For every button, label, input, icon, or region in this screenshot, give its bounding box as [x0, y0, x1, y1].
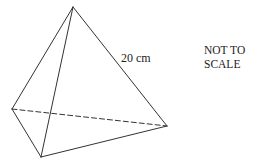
edge-apex-right: [73, 7, 167, 126]
edge-front-right: [41, 126, 167, 157]
not-to-scale-note: NOT TO SCALE: [204, 44, 245, 71]
edge-apex-front: [41, 7, 73, 157]
note-line-1: NOT TO: [204, 44, 245, 58]
note-line-2: SCALE: [204, 58, 245, 72]
edge-left-front: [12, 109, 41, 157]
tetrahedron-diagram: [0, 0, 261, 164]
edge-left-right-hidden: [12, 109, 167, 126]
edge-apex-left: [12, 7, 73, 109]
edge-length-label: 20 cm: [121, 52, 151, 64]
